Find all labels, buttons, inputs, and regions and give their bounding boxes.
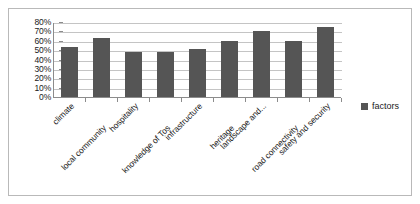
chart-page: 80%70%60%50%40%30%20%10%0% climatelocal … (0, 0, 420, 204)
square-marker-icon (361, 103, 368, 110)
bar-slot (213, 23, 245, 97)
legend-item-label: factors (372, 101, 399, 111)
y-axis-tick-label: 0% (39, 93, 51, 102)
bar-slot (277, 23, 309, 97)
x-axis-tick-mark (309, 98, 310, 102)
x-axis: climatelocal communityhospitalityknowled… (53, 99, 341, 189)
bar-slot (182, 23, 214, 97)
bar (157, 52, 174, 97)
y-axis-tick-label: 20% (35, 74, 51, 83)
x-axis-category-label: local community (59, 123, 108, 172)
bar-slot (86, 23, 118, 97)
x-axis-tick-mark (245, 98, 246, 102)
x-axis-category-label: safety and security (276, 101, 332, 157)
bar (285, 41, 302, 97)
x-axis-tick-mark (85, 98, 86, 102)
bar (253, 31, 270, 97)
x-axis-category-label: infrastructure (163, 101, 204, 142)
bar-slot (118, 23, 150, 97)
bar (93, 38, 110, 97)
bar-slot (150, 23, 182, 97)
bar-slot (309, 23, 341, 97)
y-axis: 80%70%60%50%40%30%20%10%0% (19, 18, 51, 103)
bar (61, 47, 78, 97)
bar (125, 52, 142, 97)
plot-area (53, 23, 341, 98)
x-axis-tick-mark (277, 98, 278, 102)
x-axis-tick-mark (341, 98, 342, 102)
y-axis-tick-label: 50% (35, 46, 51, 55)
bar (189, 49, 206, 97)
x-axis-category-label: hospitality (107, 101, 140, 134)
x-axis-tick-mark (149, 98, 150, 102)
bar-slot (245, 23, 277, 97)
x-axis-category-label: road connectivity (249, 123, 300, 174)
bar-series-factors (54, 23, 341, 97)
x-axis-tick-mark (117, 98, 118, 102)
chart-legend: factors (361, 101, 399, 111)
x-axis-category-label: knowledge of Tos (120, 123, 172, 175)
x-axis-tick-mark (213, 98, 214, 102)
bar (221, 41, 238, 97)
bar-slot (54, 23, 86, 97)
bar (317, 27, 334, 97)
chart-frame: 80%70%60%50%40%30%20%10%0% climatelocal … (8, 8, 412, 196)
x-axis-tick-mark (181, 98, 182, 102)
x-axis-category-label: climate (50, 101, 76, 127)
